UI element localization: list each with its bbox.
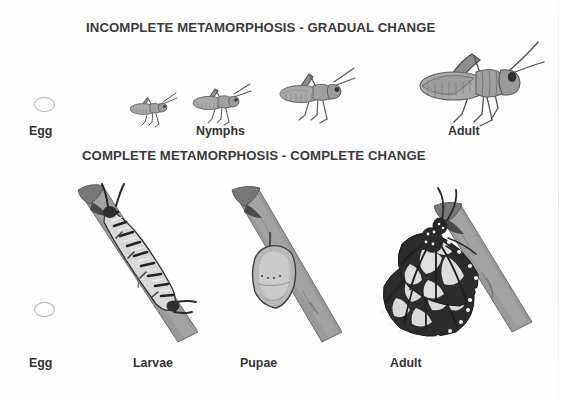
grasshopper-adult xyxy=(398,36,546,132)
grasshopper-nymph-1 xyxy=(116,88,180,130)
stage-label-adult-complete: Adult xyxy=(390,356,422,370)
chrysalis-on-branch xyxy=(222,186,348,350)
stage-label-egg-complete: Egg xyxy=(29,356,52,370)
stage-label-pupae: Pupae xyxy=(240,356,277,370)
monarch-butterfly-on-branch xyxy=(364,182,540,352)
stage-label-nymphs: Nymphs xyxy=(196,124,245,138)
grasshopper-nymph-3 xyxy=(262,60,358,130)
egg-oval-complete xyxy=(34,302,55,317)
caterpillar-on-branch xyxy=(74,182,204,350)
stage-label-larvae: Larvae xyxy=(133,356,173,370)
complete-metamorphosis-title: COMPLETE METAMORPHOSIS - COMPLETE CHANGE xyxy=(82,148,426,163)
stage-label-egg-incomplete: Egg xyxy=(29,124,52,138)
stage-label-adult-incomplete: Adult xyxy=(448,124,480,138)
page-margin-right xyxy=(559,0,573,400)
incomplete-metamorphosis-title: INCOMPLETE METAMORPHOSIS - GRADUAL CHANG… xyxy=(86,20,435,35)
grasshopper-nymph-2 xyxy=(178,78,254,130)
egg-oval-incomplete xyxy=(34,97,55,112)
diagram-page: INCOMPLETE METAMORPHOSIS - GRADUAL CHANG… xyxy=(0,0,573,400)
